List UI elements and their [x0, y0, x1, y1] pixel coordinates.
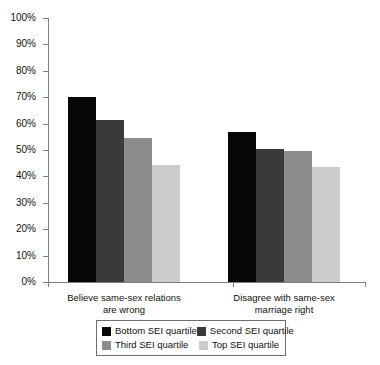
y-axis-tick-label: 30%	[16, 196, 36, 209]
bar	[96, 120, 124, 282]
y-axis-tick-label: 80%	[16, 64, 36, 77]
bar-chart: 0%10%20%30%40%50%60%70%80%90%100% Believ…	[0, 0, 380, 365]
y-axis-tick-label: 70%	[16, 90, 36, 103]
y-axis-tick: 60%	[43, 124, 48, 125]
y-axis-tick: 90%	[43, 44, 48, 45]
y-axis-tick-label: 20%	[16, 222, 36, 235]
y-axis-tick-label: 100%	[10, 11, 36, 24]
y-axis-tick: 10%	[43, 256, 48, 257]
plot-area: 0%10%20%30%40%50%60%70%80%90%100% Believ…	[48, 18, 365, 282]
bar	[68, 97, 96, 282]
bar	[124, 138, 152, 282]
y-axis-tick: 80%	[43, 71, 48, 72]
legend-entry-third-sei-quartile: Third SEI quartile	[102, 338, 199, 352]
y-axis-tick: 30%	[43, 203, 48, 204]
y-axis-tick: 100%	[43, 18, 48, 19]
y-axis-tick: 50%	[43, 150, 48, 151]
legend: Bottom SEI quartile Second SEI quartile …	[96, 320, 286, 356]
y-axis-tick: 20%	[43, 229, 48, 230]
legend-entry-bottom-sei-quartile: Bottom SEI quartile	[102, 324, 197, 338]
y-axis-tick-label: 40%	[16, 169, 36, 182]
legend-label: Top SEI quartile	[212, 338, 279, 352]
legend-swatch-icon	[102, 327, 111, 336]
x-axis-tick	[365, 282, 366, 287]
bar	[284, 151, 312, 282]
legend-label: Second SEI quartile	[210, 324, 294, 338]
bar	[312, 167, 340, 282]
legend-entry-second-sei-quartile: Second SEI quartile	[197, 324, 294, 338]
legend-swatch-icon	[199, 341, 208, 350]
bar	[152, 165, 180, 282]
legend-row: Bottom SEI quartile Second SEI quartile	[102, 324, 281, 338]
bar	[228, 132, 256, 282]
y-axis-tick: 40%	[43, 176, 48, 177]
x-axis-tick	[48, 282, 49, 287]
y-axis-tick-label: 90%	[16, 37, 36, 50]
y-axis-tick-label: 0%	[22, 275, 36, 288]
legend-label: Third SEI quartile	[115, 338, 188, 352]
bar	[256, 149, 284, 282]
legend-label: Bottom SEI quartile	[115, 324, 197, 338]
y-axis-tick-label: 60%	[16, 117, 36, 130]
legend-row: Third SEI quartile Top SEI quartile	[102, 338, 281, 352]
x-axis-group-label: Believe same-sex relations are wrong	[44, 292, 204, 316]
y-axis-tick-label: 50%	[16, 143, 36, 156]
x-axis-group-label: Disagree with same-sex marriage right	[204, 292, 364, 316]
legend-swatch-icon	[197, 327, 206, 336]
x-axis-line	[48, 282, 365, 283]
y-axis-line	[48, 18, 49, 282]
y-axis-tick: 70%	[43, 97, 48, 98]
x-axis-tick	[233, 282, 234, 287]
legend-entry-top-sei-quartile: Top SEI quartile	[199, 338, 279, 352]
y-axis-tick-label: 10%	[16, 249, 36, 262]
legend-swatch-icon	[102, 341, 111, 350]
